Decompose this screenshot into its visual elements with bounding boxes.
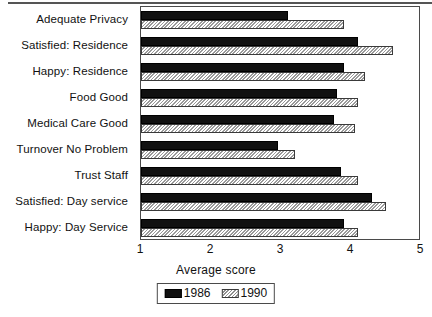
bar-1986-2	[141, 37, 358, 46]
legend-label-1990: 1990	[241, 286, 268, 300]
bar-1990-4	[141, 98, 358, 107]
bar-1986-3	[141, 63, 344, 72]
bar-1986-7	[141, 167, 341, 176]
bar-1990-7	[141, 176, 358, 185]
category-label: Satisfied: Residence	[21, 39, 128, 51]
black-solid-swatch	[165, 289, 182, 298]
legend-label-1986: 1986	[184, 286, 211, 300]
bar-1986-1	[141, 11, 288, 20]
x-tick-label: 1	[137, 242, 144, 256]
bar-1990-8	[141, 202, 386, 211]
bar-1986-6	[141, 141, 278, 150]
bar-1990-9	[141, 228, 358, 237]
bar-1986-5	[141, 115, 334, 124]
category-label: Adequate Privacy	[36, 13, 128, 25]
bar-1986-4	[141, 89, 337, 98]
category-label: Happy: Residence	[32, 65, 128, 77]
x-tick-label: 5	[417, 242, 424, 256]
legend-item-1986: 1986	[165, 286, 211, 300]
top-divider-rule	[8, 2, 432, 4]
category-label: Medical Care Good	[27, 117, 128, 129]
bar-1990-2	[141, 46, 393, 55]
hatched-swatch	[222, 289, 239, 298]
category-label: Food Good	[70, 91, 128, 103]
bar-1986-8	[141, 193, 372, 202]
bar-1990-1	[141, 20, 344, 29]
legend-item-1990: 1990	[222, 286, 268, 300]
bar-1990-5	[141, 124, 355, 133]
bar-1990-6	[141, 150, 295, 159]
category-axis-labels: Adequate PrivacySatisfied: ResidenceHapp…	[0, 6, 134, 240]
chart-legend: 1986 1990	[157, 283, 275, 304]
bar-chart-figure: Adequate PrivacySatisfied: ResidenceHapp…	[0, 0, 432, 317]
category-label: Happy: Day Service	[25, 221, 128, 233]
bars-layer	[141, 7, 419, 239]
x-tick-label: 2	[207, 242, 214, 256]
x-tick-label: 4	[347, 242, 354, 256]
category-label: Satisfied: Day service	[15, 195, 128, 207]
x-tick-label: 3	[277, 242, 284, 256]
category-label: Trust Staff	[74, 169, 128, 181]
x-axis-title: Average score	[0, 263, 432, 277]
value-axis-ticks: 12345	[140, 240, 420, 262]
plot-area	[140, 6, 420, 240]
bar-1990-3	[141, 72, 365, 81]
bar-1986-9	[141, 219, 344, 228]
category-label: Turnover No Problem	[17, 143, 128, 155]
